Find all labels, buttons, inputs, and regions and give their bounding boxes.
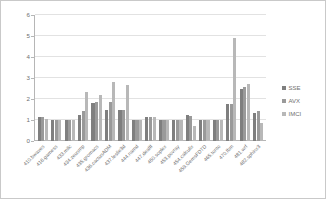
- legend-swatch-icon: [282, 112, 286, 116]
- chart-container: 0123456 410.bwaves416.gamess433.milc434.…: [0, 0, 326, 199]
- bar-group: [225, 15, 238, 141]
- y-tick-label-3: 3: [6, 75, 30, 81]
- legend-swatch-icon: [282, 86, 286, 90]
- bar-imci: [220, 120, 223, 141]
- y-tick-label-2: 2: [6, 96, 30, 102]
- bar-group: [63, 15, 76, 141]
- legend-swatch-icon: [282, 99, 286, 103]
- y-tick-label-0: 0: [6, 138, 30, 144]
- bar-imci: [153, 117, 156, 141]
- bar-imci: [260, 123, 263, 141]
- bar-imci: [193, 126, 196, 141]
- x-label-slot: 482.sphinx3: [252, 142, 266, 192]
- bar-group: [76, 15, 89, 141]
- bar-group: [49, 15, 62, 141]
- legend-item-imci[interactable]: IMCI: [282, 111, 301, 117]
- chart-legend: SSEAVXIMCI: [282, 85, 301, 117]
- bar-group: [117, 15, 130, 141]
- bar-imci: [247, 84, 250, 141]
- bar-imci: [139, 120, 142, 141]
- legend-item-sse[interactable]: SSE: [282, 85, 301, 91]
- bar-group: [198, 15, 211, 141]
- bar-imci: [233, 38, 236, 141]
- bar-group: [36, 15, 49, 141]
- bar-group: [171, 15, 184, 141]
- bar-imci: [72, 120, 75, 141]
- legend-label: AVX: [289, 98, 301, 104]
- bar-group: [90, 15, 103, 141]
- x-label-slot: 470.lbm: [224, 142, 238, 192]
- bar-imci: [179, 120, 182, 141]
- y-tick-label-6: 6: [6, 12, 30, 18]
- bar-imci: [99, 95, 102, 141]
- bar-group: [184, 15, 197, 141]
- bar-imci: [112, 82, 115, 141]
- y-tick-label-5: 5: [6, 33, 30, 39]
- legend-item-avx[interactable]: AVX: [282, 98, 301, 104]
- plot-area: [34, 15, 266, 141]
- bar-group: [144, 15, 157, 141]
- bar-group: [130, 15, 143, 141]
- x-label-slot: 447.dealII: [143, 142, 157, 192]
- bar-imci: [126, 85, 129, 141]
- bar-group: [238, 15, 251, 141]
- legend-label: SSE: [289, 85, 301, 91]
- y-tick-label-1: 1: [6, 117, 30, 123]
- bar-imci: [58, 120, 61, 141]
- x-axis-labels: 410.bwaves416.gamess433.milc434.zeusmp43…: [34, 142, 266, 192]
- bar-imci: [45, 119, 48, 141]
- bar-imci: [206, 120, 209, 141]
- x-label-slot: 416.gamess: [49, 142, 63, 192]
- x-label-slot: 459.GemsFDTD: [197, 142, 211, 192]
- y-tick-label-4: 4: [6, 54, 30, 60]
- bar-group: [211, 15, 224, 141]
- bar-imci: [166, 120, 169, 141]
- bar-series-group: [35, 15, 266, 141]
- bar-group: [252, 15, 265, 141]
- legend-label: IMCI: [289, 111, 302, 117]
- bar-group: [103, 15, 116, 141]
- bar-group: [157, 15, 170, 141]
- bar-imci: [85, 92, 88, 141]
